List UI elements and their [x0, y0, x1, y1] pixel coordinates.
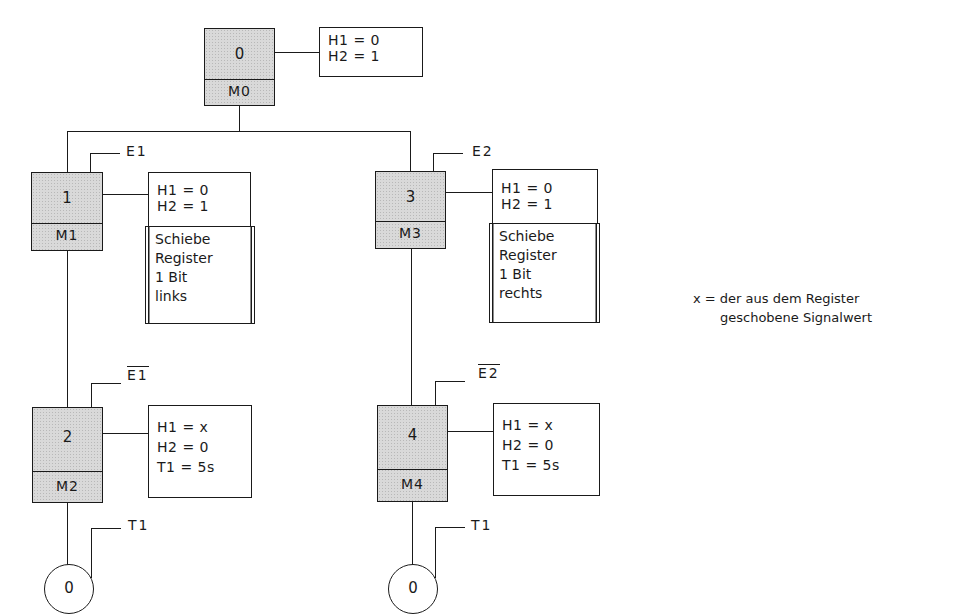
step-2-memory: M2 — [33, 471, 102, 502]
step-4-number: 4 — [378, 426, 447, 444]
step-1-memory: M1 — [32, 223, 102, 250]
step-1-number: 1 — [32, 189, 102, 207]
shift-line: Register — [155, 249, 254, 268]
connector-step4-down — [412, 502, 413, 565]
condition-not-e2-label: E2 — [478, 364, 500, 381]
shift-line: Schiebe — [499, 227, 599, 246]
condition-e2-line — [433, 153, 463, 154]
step-0-number: 0 — [205, 45, 274, 63]
shift-line: 1 Bit — [155, 268, 254, 287]
shift-line: 1 Bit — [499, 265, 599, 284]
end-node-right: 0 — [388, 564, 438, 614]
shift-line: Register — [499, 246, 599, 265]
action-box-0: H1 = 0 H2 = 1 — [319, 27, 423, 77]
condition-not-e1-tick — [91, 383, 92, 407]
condition-t1-right-tick — [435, 527, 436, 578]
shift-line: rechts — [499, 284, 599, 303]
condition-t1-right-line — [435, 527, 465, 528]
condition-not-e2-line — [435, 381, 465, 382]
shift-line: links — [155, 287, 254, 306]
connector-step2-action — [103, 433, 149, 434]
connector-step3-action — [446, 192, 493, 193]
step-3-memory: M3 — [376, 221, 445, 248]
condition-not-e1-label: E1 — [127, 366, 149, 383]
connector-step1-down — [67, 251, 68, 407]
step-4-memory: M4 — [378, 469, 447, 501]
connector-step0-down — [239, 106, 240, 132]
condition-e2-tick — [433, 153, 434, 171]
branch-left-down — [67, 131, 68, 172]
shift-line: Schiebe — [155, 230, 254, 249]
condition-t1-left-tick — [91, 528, 92, 578]
step-2-number: 2 — [33, 428, 102, 446]
condition-not-e1-line — [91, 383, 121, 384]
step-3: 3 M3 — [375, 171, 446, 249]
step-4: 4 M4 — [377, 405, 448, 502]
action-box-3-shift: Schiebe Register 1 Bit rechts — [489, 223, 600, 323]
condition-e1-label: E1 — [126, 143, 148, 159]
connector-step0-action — [275, 52, 319, 53]
condition-t1-left-label: T1 — [128, 517, 149, 533]
condition-e1-tick — [90, 153, 91, 172]
connector-step4-action — [448, 431, 494, 432]
legend-note-line2: geschobene Signalwert — [720, 309, 872, 327]
step-0-memory: M0 — [205, 79, 274, 105]
condition-e2-label: E2 — [472, 143, 494, 159]
condition-e1-line — [90, 153, 120, 154]
condition-not-e2-tick — [435, 381, 436, 405]
legend-note-line1: x = der aus dem Register — [693, 290, 859, 308]
connector-step3-down — [411, 249, 412, 406]
step-3-number: 3 — [376, 188, 445, 206]
action-box-4: H1 = x H2 = 0 T1 = 5s — [493, 403, 600, 496]
branch-right-down — [410, 131, 411, 171]
condition-t1-right-label: T1 — [471, 517, 492, 533]
action-box-2: H1 = x H2 = 0 T1 = 5s — [148, 405, 252, 498]
end-node-left: 0 — [44, 564, 94, 614]
action-box-1: H1 = 0 H2 = 1 — [148, 172, 251, 228]
condition-t1-left-line — [91, 528, 121, 529]
step-2: 2 M2 — [32, 407, 103, 503]
step-0: 0 M0 — [204, 28, 275, 106]
connector-step2-down — [67, 503, 68, 565]
branch-line — [67, 131, 411, 132]
connector-step1-action — [103, 194, 149, 195]
action-box-1-shift: Schiebe Register 1 Bit links — [145, 226, 255, 324]
action-box-3: H1 = 0 H2 = 1 — [492, 169, 598, 225]
step-1: 1 M1 — [31, 172, 103, 251]
